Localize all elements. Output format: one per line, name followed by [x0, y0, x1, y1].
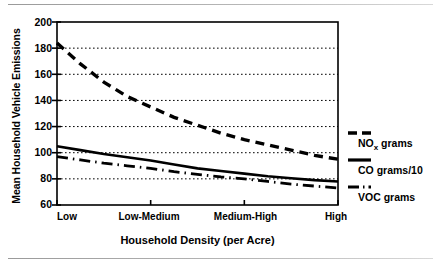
legend-nox-rest: grams [378, 137, 412, 149]
legend-label-nox: NOx grams [358, 137, 413, 152]
figure-container: Mean Household Vehicle Emissions 200 180… [0, 0, 441, 270]
legend-label-voc: VOC grams [358, 191, 415, 203]
legend-nox-main: NO [358, 137, 374, 149]
legend-label-co: CO grams/10 [358, 164, 423, 176]
chart-svg [0, 0, 441, 252]
chart-plot-wrapper: Mean Household Vehicle Emissions 200 180… [0, 0, 441, 252]
bottom-divider-rule [8, 258, 433, 259]
